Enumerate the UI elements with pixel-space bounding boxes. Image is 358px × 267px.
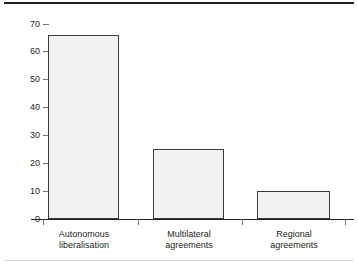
bottom-divider-rule	[4, 260, 354, 261]
y-tick-label-50: 50	[14, 75, 40, 84]
x-tick-separator-1	[43, 219, 44, 225]
y-tick-label-10: 10	[14, 187, 40, 196]
bar-multilateral-agreements	[153, 149, 224, 219]
x-category-line-2: agreements	[143, 240, 235, 251]
x-axis-line	[31, 219, 354, 220]
x-category-line-1: Autonomous	[38, 229, 130, 240]
x-category-label-autonomous-liberalisation: Autonomous liberalisation	[38, 229, 130, 251]
x-category-line-2: liberalisation	[38, 240, 130, 251]
x-category-line-1: Multilateral	[143, 229, 235, 240]
x-category-label-regional-agreements: Regional agreements	[248, 229, 340, 251]
bar-autonomous-liberalisation	[48, 35, 119, 219]
y-tick-label-30: 30	[14, 131, 40, 140]
y-tick-label-70: 70	[14, 20, 40, 29]
x-category-line-2: agreements	[248, 240, 340, 251]
y-tick-label-20: 20	[14, 159, 40, 168]
x-category-label-multilateral-agreements: Multilateral agreements	[143, 229, 235, 251]
x-tick-separator-2	[138, 219, 139, 225]
y-tick-mark-70	[43, 24, 49, 25]
y-tick-label-60: 60	[14, 47, 40, 56]
x-category-line-1: Regional	[248, 229, 340, 240]
x-tick-separator-4	[345, 219, 346, 225]
x-tick-separator-3	[242, 219, 243, 225]
plot-area: 70 60 50 40 30 20 10 0 Autonomous libera…	[0, 0, 358, 267]
bar-regional-agreements	[257, 191, 330, 219]
y-tick-label-40: 40	[14, 103, 40, 112]
bar-chart-figure: 70 60 50 40 30 20 10 0 Autonomous libera…	[0, 0, 358, 267]
